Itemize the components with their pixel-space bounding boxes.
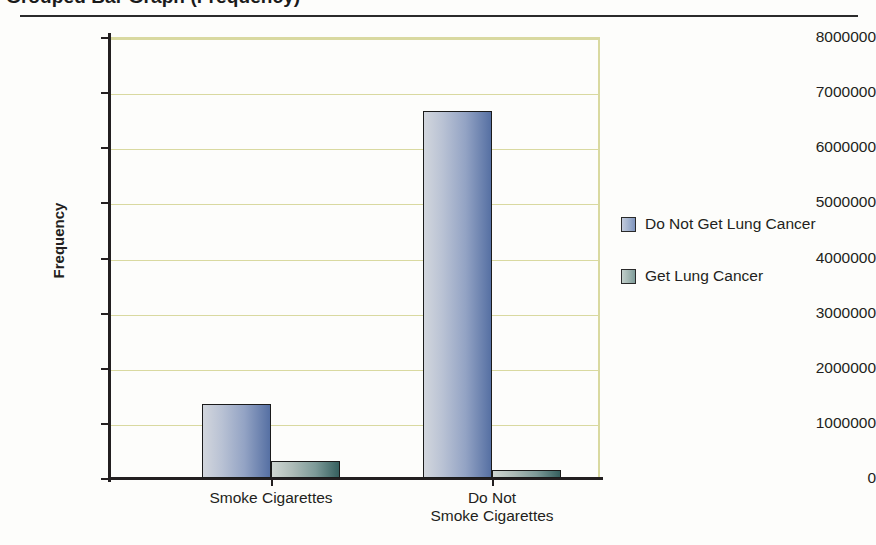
y-axis-tick-label: 8000000 bbox=[780, 28, 876, 46]
legend-label: Do Not Get Lung Cancer bbox=[645, 215, 816, 233]
y-axis-tick-label: 7000000 bbox=[780, 83, 876, 101]
gridline bbox=[110, 370, 600, 371]
y-axis-tick bbox=[101, 147, 110, 149]
bar bbox=[271, 461, 340, 478]
y-axis-tick bbox=[101, 258, 110, 260]
gridline bbox=[110, 149, 600, 150]
y-axis-tick bbox=[101, 37, 110, 39]
gridline bbox=[110, 260, 600, 261]
x-axis-tick bbox=[492, 477, 494, 486]
x-axis-tick-label: Smoke Cigarettes bbox=[161, 489, 381, 507]
bar bbox=[423, 111, 492, 478]
gridline bbox=[110, 425, 600, 426]
y-axis-tick-label: 6000000 bbox=[780, 138, 876, 156]
y-axis-tick bbox=[101, 478, 110, 480]
legend: Do Not Get Lung Cancer Get Lung Cancer bbox=[621, 215, 871, 319]
gridline bbox=[110, 315, 600, 316]
y-axis-tick bbox=[101, 368, 110, 370]
gridline bbox=[110, 204, 600, 205]
y-axis-tick-label: 1000000 bbox=[780, 414, 876, 432]
legend-item[interactable]: Get Lung Cancer bbox=[621, 267, 871, 285]
y-axis-tick bbox=[101, 202, 110, 204]
y-axis-title: Frequency bbox=[50, 171, 67, 311]
legend-item[interactable]: Do Not Get Lung Cancer bbox=[621, 215, 871, 233]
title-divider bbox=[20, 15, 858, 17]
page-title: Grouped Bar Graph (Frequency) bbox=[6, 0, 300, 8]
gridline bbox=[110, 39, 600, 40]
y-axis-tick-label: 5000000 bbox=[780, 193, 876, 211]
legend-label: Get Lung Cancer bbox=[645, 267, 763, 285]
y-axis-tick bbox=[101, 92, 110, 94]
bar bbox=[492, 470, 561, 478]
y-axis-tick bbox=[101, 313, 110, 315]
y-axis-tick bbox=[101, 423, 110, 425]
bar bbox=[202, 404, 271, 478]
legend-swatch-blue-icon bbox=[621, 217, 636, 232]
x-axis-tick bbox=[271, 477, 273, 486]
gridline bbox=[110, 94, 600, 95]
plot-area bbox=[110, 37, 600, 478]
y-axis-tick-label: 0 bbox=[780, 469, 876, 487]
chart-title-strip: Grouped Bar Graph (Frequency) bbox=[0, 0, 876, 22]
y-axis-tick-label: 2000000 bbox=[780, 359, 876, 377]
legend-swatch-green-icon bbox=[621, 269, 636, 284]
x-axis-tick-label: Do NotSmoke Cigarettes bbox=[382, 489, 602, 525]
